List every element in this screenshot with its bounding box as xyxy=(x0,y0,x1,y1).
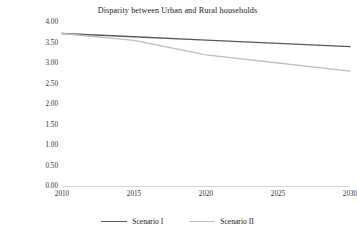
legend-swatch-icon xyxy=(101,221,127,222)
y-axis-tick-label: 0.00 xyxy=(2,182,58,190)
y-axis-tick-label: 3.00 xyxy=(2,59,58,67)
y-axis-tick-label: 4.00 xyxy=(2,18,58,26)
legend-swatch-icon xyxy=(189,221,215,222)
legend-label: Scenario II xyxy=(220,217,254,226)
y-axis-tick-label: 3.50 xyxy=(2,39,58,47)
chart-legend: Scenario IScenario II xyxy=(0,213,355,229)
series-line xyxy=(62,33,350,46)
x-axis-tick-label: 2015 xyxy=(127,190,141,198)
y-axis-tick-label: 1.50 xyxy=(2,121,58,129)
y-axis: 0.000.501.001.502.002.503.003.504.00 xyxy=(0,0,58,200)
y-axis-tick-label: 0.50 xyxy=(2,162,58,170)
x-axis: 20102015202020252030 xyxy=(62,190,350,204)
plot-area xyxy=(62,22,350,186)
y-axis-tick-label: 2.00 xyxy=(2,100,58,108)
series-lines xyxy=(62,22,350,186)
series-line xyxy=(62,33,350,71)
legend-item[interactable]: Scenario II xyxy=(189,217,254,226)
legend-label: Scenario I xyxy=(132,217,163,226)
x-axis-tick-label: 2025 xyxy=(271,190,285,198)
legend-item[interactable]: Scenario I xyxy=(101,217,163,226)
y-axis-tick-label: 1.00 xyxy=(2,141,58,149)
x-axis-tick-label: 2030 xyxy=(343,190,357,198)
x-axis-tick-label: 2010 xyxy=(55,190,69,198)
y-axis-tick-label: 2.50 xyxy=(2,80,58,88)
x-axis-tick-label: 2020 xyxy=(199,190,213,198)
x-axis-line xyxy=(62,186,350,187)
